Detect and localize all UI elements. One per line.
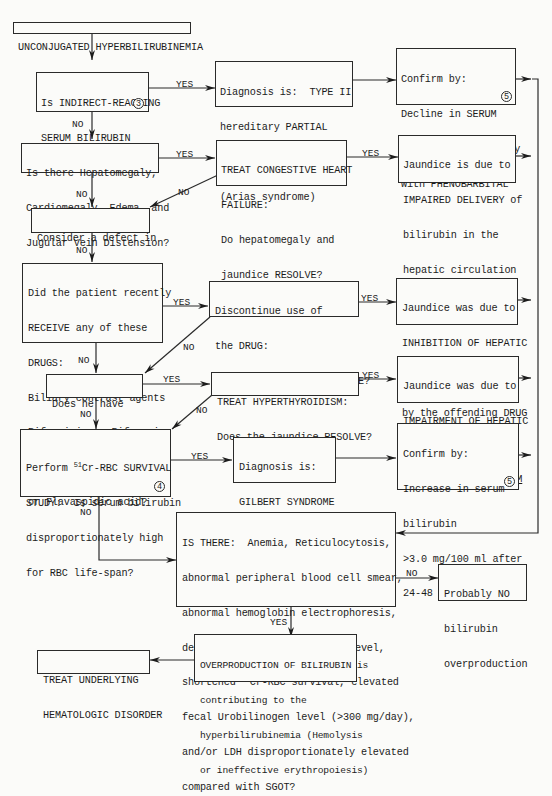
node-text: Probably NO: [444, 589, 521, 601]
node-text: FAILURE:: [221, 200, 342, 212]
node-text: Jaundice was due to: [402, 303, 512, 315]
node-q3-drugs: Did the patient recently RECEIVE any of …: [22, 263, 163, 343]
node-text: Cr-RBC SURVIVAL: [82, 463, 171, 474]
node-start: UNCONJUGATED HYPERBILIRUBINEMIA: [13, 22, 191, 34]
node-text: abnormal hemoglobin electrophoresis,: [182, 608, 390, 620]
node-n1-no-overproduction: Probably NO bilirubin overproduction: [438, 564, 527, 601]
node-q6-hemolysis-signs: IS THERE: Anemia, Reticulocytosis, abnor…: [176, 512, 396, 607]
edge-label-yes: YES: [173, 298, 190, 308]
reference-number-badge: 4: [154, 481, 165, 492]
node-text: Does he have: [52, 399, 137, 411]
node-text: GILBERT SYNDROME: [239, 497, 330, 509]
node-t3-treat-hyperthyroidism: TREAT HYPERTHYROIDISM: Does the jaundice…: [211, 372, 359, 396]
node-text: OVERPRODUCTION OF BILIRUBIN is: [200, 660, 351, 672]
reference-number-badge: 5: [501, 91, 512, 102]
node-text: hereditary PARTIAL: [220, 122, 348, 134]
node-o1-overproduction: OVERPRODUCTION OF BILIRUBIN is contribut…: [194, 634, 357, 682]
node-text: Increase in serum: [403, 484, 513, 496]
edge-label-no: NO: [196, 406, 207, 416]
edge-label-no: NO: [178, 188, 189, 198]
node-text: TREAT UNDERLYING: [43, 675, 144, 687]
node-r2-drug-inhibition: Jaundice was due to INHIBITION OF HEPATI…: [396, 278, 518, 325]
node-text: IMPAIRED DELIVERY of: [403, 195, 511, 207]
node-text: INHIBITION OF HEPATIC: [402, 338, 512, 350]
node-text: Discontinue use of: [215, 306, 353, 318]
node-text: Confirm by:: [401, 74, 511, 86]
node-text: bilirubin: [444, 624, 521, 636]
node-d1-arias-syndrome: Diagnosis is: TYPE II hereditary PARTIAL…: [215, 61, 353, 107]
edge-label-no: NO: [183, 343, 194, 353]
edge-label-yes: YES: [361, 294, 378, 304]
reference-number-badge: 5: [504, 476, 515, 487]
node-text: Is INDIRECT-REACTING: [41, 98, 144, 110]
node-text: IS THERE: Anemia, Reticulocytosis,: [182, 538, 390, 550]
node-text: overproduction: [444, 659, 521, 671]
node-c2-fasting-confirm: Confirm by: Increase in serum bilirubin …: [397, 423, 519, 490]
node-text: Jaundice was due to: [403, 381, 513, 393]
node-text: the DRUG:: [215, 341, 353, 353]
node-text: HEMATOLOGIC DISORDER: [43, 710, 144, 722]
node-text: RECEIVE any of these: [28, 323, 157, 335]
reference-number-badge: 3: [133, 98, 144, 109]
node-t2-discontinue-drug: Discontinue use of the DRUG: Does the ja…: [209, 281, 359, 317]
node-text: TREAT CONGESTIVE HEART: [221, 165, 342, 177]
node-text: Consider a defect in: [37, 233, 144, 245]
node-d2-gilbert-syndrome: Diagnosis is: GILBERT SYNDROME (Familial…: [233, 437, 336, 483]
node-text: Confirm by:: [403, 449, 513, 461]
node-q2-hepatomegaly: Is there Hepatomegaly, Cardiomegaly, Ede…: [21, 143, 159, 173]
superscript: 51: [74, 461, 82, 469]
edge-label-yes: YES: [362, 149, 379, 159]
node-text: disproportionately high: [26, 533, 165, 545]
node-text: for RBC life-span?: [26, 568, 165, 580]
node-text: STUDY: Is serum bilirubin: [26, 498, 165, 510]
node-t1-treat-chf: TREAT CONGESTIVE HEART FAILURE: Do hepat…: [216, 140, 347, 186]
node-text: bilirubin: [403, 519, 513, 531]
node-text: or ineffective erythropoiesis): [200, 765, 351, 777]
node-text: Jaundice is due to: [403, 160, 511, 172]
edge-label-yes: YES: [176, 150, 193, 160]
edge-label-yes: YES: [176, 80, 193, 90]
node-q1-indirect-bilirubin: Is INDIRECT-REACTING SERUM BILIRUBIN >6.…: [36, 72, 149, 112]
node-text: Is there Hepatomegaly,: [26, 168, 154, 180]
node-text: Diagnosis is:: [239, 462, 330, 474]
node-text: Diagnosis is: TYPE II: [220, 87, 348, 99]
node-text: abnormal peripheral blood cell smear,: [182, 573, 390, 585]
node-text: hepatic circulation: [403, 265, 511, 277]
node-q5-rbc-survival-study: Perform 51Cr-RBC SURVIVAL STUDY: Is seru…: [20, 429, 171, 497]
node-text: TREAT HYPERTHYROIDISM:: [217, 397, 353, 409]
node-text: DRUGS:: [28, 358, 157, 370]
node-t4-treat-hematologic: TREAT UNDERLYING HEMATOLOGIC DISORDER: [37, 650, 150, 674]
node-c1-phenobarbital-confirm: Confirm by: Decline in SERUM BILIRUBIN o…: [396, 48, 516, 105]
node-text: Perform: [26, 463, 74, 474]
node-text: Do hepatomegaly and: [221, 235, 342, 247]
edge-label-yes: YES: [191, 452, 208, 462]
edge-label-yes: YES: [163, 375, 180, 385]
node-text: hyperbilirubinemia (Hemolysis: [200, 730, 351, 742]
node-text: bilirubin in the: [403, 230, 511, 242]
node-text: UNCONJUGATED HYPERBILIRUBINEMIA: [18, 43, 186, 53]
node-r1-impaired-delivery: Jaundice is due to IMPAIRED DELIVERY of …: [398, 135, 516, 183]
node-q4-hyperthyroidism: Does he have HYPERTHYROIDISM?: [46, 374, 143, 398]
node-text: Did the patient recently: [28, 288, 157, 300]
node-r3-hyperthyroid-impairment: Jaundice was due to IMPAIRMENT OF HEPATI…: [397, 356, 519, 403]
node-text: contributing to the: [200, 695, 351, 707]
node-s1-hepatic-uptake-defect: Consider a defect in HEPATIC UPTAKE: [31, 208, 150, 233]
node-text: jaundice RESOLVE?: [221, 270, 342, 282]
node-text: Decline in SERUM: [401, 109, 511, 121]
